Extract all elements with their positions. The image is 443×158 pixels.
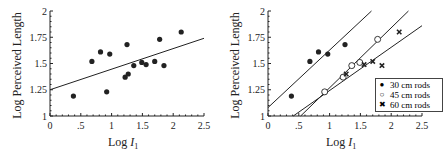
data-point [126,71,131,76]
y-axis-label: Log Perceived Length [228,11,243,121]
data-point [342,42,347,47]
y-tick-label: 1 [42,111,47,122]
data-point [179,29,184,34]
data-point [71,93,76,98]
data-point [316,49,321,54]
x-mark-icon: ✖ [378,100,386,110]
x-axis-label: Log I1 [108,135,138,151]
data-point [349,63,355,69]
x-tick-label: 0 [266,120,271,131]
x-tick-label: 2 [171,120,176,131]
x-tick-label: 1.5 [354,120,367,131]
data-point [157,37,162,42]
legend-item-30cm: ●30 cm rods [378,80,440,90]
y-tick-label: 1.75 [30,32,48,43]
right-chart: 0.511.522.511.251.51.752 Log Perceived L… [218,0,436,158]
data-point [375,36,381,42]
y-tick-label: 2 [260,6,265,17]
data-point [98,49,103,54]
data-point [124,42,129,47]
data-point [107,51,112,56]
legend: ●30 cm rods ○45 cm rods ✖60 cm rods [375,78,443,112]
legend-item-60cm: ✖60 cm rods [378,100,440,110]
x-tick-label: .5 [77,120,85,131]
data-point [143,62,148,67]
y-tick-label: 2 [42,6,47,17]
x-tick-label: 2 [389,120,394,131]
y-tick-label: 1.5 [35,58,48,69]
x-tick-label: .5 [295,120,303,131]
open-circle-icon: ○ [378,90,386,100]
y-axis-label: Log Perceived Length [10,11,25,121]
x-axis-label: Log I1 [326,135,356,151]
data-point [307,59,312,64]
y-tick-label: 1 [260,111,265,122]
data-point [131,63,136,68]
x-tick-label: 2.5 [416,120,429,131]
data-point [89,59,94,64]
y-tick-label: 1.25 [248,84,266,95]
data-point [322,89,328,95]
y-tick-label: 1.25 [30,84,48,95]
data-point [325,51,330,56]
filled-circle-icon: ● [378,80,386,90]
y-tick-label: 1.5 [253,58,266,69]
data-point [152,59,157,64]
fit-line [268,11,371,108]
data-point [161,63,166,68]
x-tick-label: 1 [327,120,332,131]
x-tick-label: 1.5 [136,120,149,131]
left-chart: 0.511.522.511.251.51.752 Log Perceived L… [0,0,218,158]
y-tick-label: 1.75 [248,32,266,43]
x-tick-label: 2.5 [198,120,211,131]
data-point [289,93,294,98]
data-point [104,89,109,94]
legend-item-45cm: ○45 cm rods [378,90,440,100]
x-tick-label: 1 [109,120,114,131]
x-tick-label: 0 [48,120,53,131]
